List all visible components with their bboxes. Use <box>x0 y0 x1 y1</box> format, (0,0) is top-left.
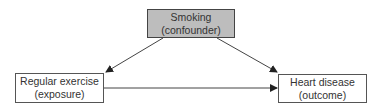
edge-confounder-outcome <box>217 38 277 72</box>
node-sublabel: (exposure) <box>34 88 84 101</box>
node-label: Regular exercise <box>20 75 99 88</box>
node-sublabel: (confounder) <box>161 24 221 37</box>
node-label: Smoking <box>171 11 212 24</box>
node-sublabel: (outcome) <box>299 89 346 102</box>
node-exposure: Regular exercise (exposure) <box>15 73 104 103</box>
node-confounder: Smoking (confounder) <box>147 9 235 38</box>
node-label: Heart disease <box>290 76 355 89</box>
node-outcome: Heart disease (outcome) <box>278 74 367 103</box>
edge-confounder-exposure <box>106 38 163 72</box>
